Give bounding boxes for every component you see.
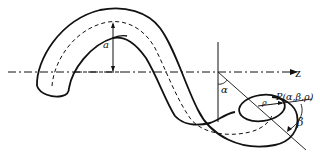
- tube-start-cap: [37, 86, 69, 97]
- tube-centerline: [52, 22, 272, 135]
- amplitude-marker: [111, 22, 115, 72]
- label-alpha: α: [221, 84, 228, 95]
- label-beta: β: [296, 116, 303, 129]
- amplitude-arrow-up-icon: [111, 22, 115, 28]
- amplitude-arrow-down-icon: [111, 66, 115, 72]
- alpha-radial-line: [218, 72, 306, 150]
- label-rho: ρ: [261, 98, 267, 107]
- tube-inner-wall: [69, 38, 235, 125]
- tube-outer-wall: [37, 8, 298, 146]
- label-point-P: P(α,β,ρ): [275, 91, 314, 102]
- beta-arc-arrowhead-icon: [287, 126, 292, 132]
- tube-diagram: a z α ρ P(α,β,ρ) β: [0, 0, 320, 166]
- label-a: a: [103, 39, 109, 50]
- label-z: z: [295, 67, 301, 80]
